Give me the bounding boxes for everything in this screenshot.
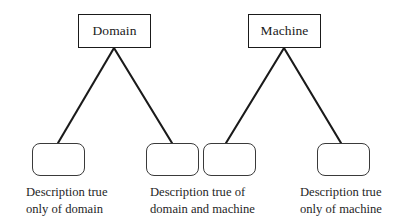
- caption-domain-only: Description true only of domain: [26, 184, 107, 217]
- caption-domain-only-line2: only of domain: [26, 201, 107, 218]
- node-machine-label: Machine: [261, 24, 309, 38]
- node-leaf-shared-right: [203, 143, 256, 176]
- caption-shared-line1: Description true of: [150, 184, 255, 201]
- diagram-canvas: Domain Machine Description true only of …: [0, 0, 408, 224]
- node-leaf-shared-left: [146, 143, 199, 176]
- caption-domain-only-line1: Description true: [26, 184, 107, 201]
- caption-shared: Description true of domain and machine: [150, 184, 255, 217]
- edge-domain-to-shared-left: [114, 48, 172, 143]
- node-domain-label: Domain: [92, 24, 136, 38]
- caption-machine-only-line2: only of machine: [300, 201, 382, 218]
- edge-machine-to-machine-only: [284, 48, 341, 143]
- edge-domain-to-domain-only: [58, 48, 114, 143]
- caption-machine-only-line1: Description true: [300, 184, 382, 201]
- edge-machine-to-shared-right: [226, 48, 284, 143]
- node-domain: Domain: [78, 14, 151, 48]
- node-leaf-domain-only: [32, 143, 85, 176]
- node-machine: Machine: [248, 14, 321, 48]
- caption-machine-only: Description true only of machine: [300, 184, 382, 217]
- node-leaf-machine-only: [317, 143, 370, 176]
- caption-shared-line2: domain and machine: [150, 201, 255, 218]
